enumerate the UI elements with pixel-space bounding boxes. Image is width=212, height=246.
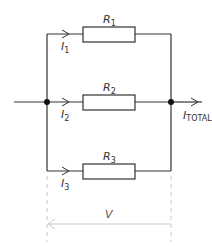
parallel-circuit-diagram: R1 R2 R3 I1 I2 I3 ITOTAL V <box>0 0 212 246</box>
resistor-r2 <box>83 95 135 110</box>
label-voltage: V <box>105 208 114 221</box>
label-i2: I2 <box>61 108 69 123</box>
label-itotal: ITOTAL <box>183 109 212 123</box>
resistor-r3 <box>83 164 135 179</box>
label-i3: I3 <box>61 177 69 192</box>
junction-right <box>168 99 174 105</box>
junction-left <box>44 99 50 105</box>
resistor-r1 <box>83 27 135 42</box>
label-r2: R2 <box>103 81 116 96</box>
label-r1: R1 <box>103 13 116 28</box>
label-r3: R3 <box>103 150 116 165</box>
label-i1: I1 <box>61 40 69 55</box>
